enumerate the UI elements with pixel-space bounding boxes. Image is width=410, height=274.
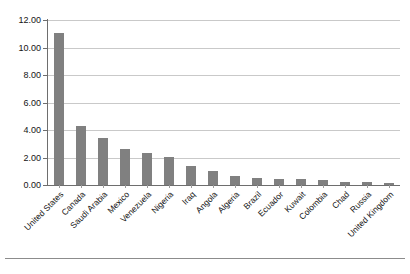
x-tick-mark — [59, 185, 60, 188]
bar — [230, 176, 240, 185]
x-tick-mark — [345, 185, 346, 188]
x-tick-mark — [81, 185, 82, 188]
y-tick-mark-10 — [43, 48, 47, 49]
x-tick-mark — [147, 185, 148, 188]
x-tick-mark — [103, 185, 104, 188]
y-tick-mark-12 — [43, 20, 47, 21]
x-tick-mark — [301, 185, 302, 188]
y-tick-mark-2 — [43, 158, 47, 159]
x-tick-mark — [169, 185, 170, 188]
bar-series — [48, 20, 400, 185]
y-axis-tick-label: 12.00 — [18, 16, 41, 25]
bar — [120, 149, 130, 185]
y-axis-tick-label: 0.00 — [23, 181, 41, 190]
x-tick-mark — [389, 185, 390, 188]
x-tick-mark — [125, 185, 126, 188]
y-axis-tick-label: 10.00 — [18, 44, 41, 53]
x-axis-line — [47, 185, 400, 186]
bar — [164, 157, 174, 185]
bar — [208, 171, 218, 185]
x-tick-mark — [279, 185, 280, 188]
bar — [252, 178, 262, 185]
x-tick-mark — [213, 185, 214, 188]
bar — [76, 126, 86, 185]
bar — [54, 33, 64, 185]
x-tick-mark — [235, 185, 236, 188]
y-tick-mark-4 — [43, 130, 47, 131]
y-tick-mark-8 — [43, 75, 47, 76]
x-tick-mark — [257, 185, 258, 188]
y-tick-mark-6 — [43, 103, 47, 104]
x-tick-mark — [191, 185, 192, 188]
y-axis-tick-label: 8.00 — [23, 71, 41, 80]
y-tick-mark-0 — [43, 185, 47, 186]
y-axis-tick-label: 6.00 — [23, 99, 41, 108]
y-axis-tick-label: 2.00 — [23, 154, 41, 163]
x-tick-mark — [367, 185, 368, 188]
y-axis-tick-label: 4.00 — [23, 126, 41, 135]
bar-chart-figure: 12.00 10.00 8.00 6.00 4.00 2.00 0.00 Uni… — [0, 0, 410, 274]
bar — [98, 138, 108, 185]
x-tick-mark — [323, 185, 324, 188]
bar — [142, 153, 152, 185]
bar — [186, 166, 196, 185]
bottom-divider-rule — [5, 258, 405, 259]
